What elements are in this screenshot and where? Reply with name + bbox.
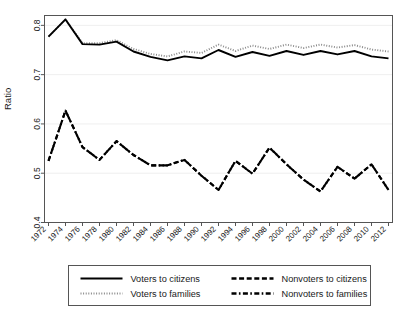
x-tick-label: 2012 xyxy=(369,224,388,243)
y-tick-label: 0.5 xyxy=(32,167,42,179)
x-axis: 1972197419761978198019821984198619881990… xyxy=(29,223,389,244)
plot-frame xyxy=(45,16,393,223)
x-tick-label: 1998 xyxy=(250,224,269,243)
legend-label: Nonvoters to citizens xyxy=(282,274,368,284)
x-tick-label: 1974 xyxy=(46,224,65,243)
y-axis: 0.40.50.60.70.8 xyxy=(32,19,45,228)
y-tick-label: 0.7 xyxy=(32,68,42,80)
series-line xyxy=(49,111,389,192)
chart-figure: Ratio 0.40.50.60.70.81972197419761978198… xyxy=(0,0,418,315)
legend-box xyxy=(69,266,371,306)
x-tick-label: 1980 xyxy=(97,224,116,243)
x-tick-label: 2006 xyxy=(318,224,337,243)
y-axis-label: Ratio xyxy=(2,88,13,110)
legend-label: Voters to citizens xyxy=(131,274,201,284)
gridlines xyxy=(45,25,393,222)
legend-label: Voters to families xyxy=(131,289,201,299)
legend-label: Nonvoters to families xyxy=(282,289,368,299)
x-tick-label: 2010 xyxy=(352,224,371,243)
x-tick-label: 2008 xyxy=(335,224,354,243)
x-tick-label: 1976 xyxy=(63,224,82,243)
x-tick-label: 1986 xyxy=(148,224,167,243)
x-tick-label: 1996 xyxy=(233,224,252,243)
x-tick-label: 2004 xyxy=(301,224,320,243)
series-line xyxy=(49,111,389,192)
legend: Voters to citizensNonvoters to citizensV… xyxy=(69,266,371,306)
y-tick-label: 0.8 xyxy=(32,19,42,31)
x-tick-label: 1978 xyxy=(80,224,99,243)
x-tick-label: 1982 xyxy=(114,224,133,243)
x-tick-label: 2000 xyxy=(267,224,286,243)
y-tick-label: 0.6 xyxy=(32,118,42,130)
x-tick-label: 1990 xyxy=(182,224,201,243)
chart-canvas: 0.40.50.60.70.81972197419761978198019821… xyxy=(0,0,418,315)
x-tick-label: 1994 xyxy=(216,224,235,243)
x-tick-label: 1992 xyxy=(199,224,218,243)
x-tick-label: 1984 xyxy=(131,224,150,243)
x-tick-label: 2002 xyxy=(284,224,303,243)
x-tick-label: 1988 xyxy=(165,224,184,243)
